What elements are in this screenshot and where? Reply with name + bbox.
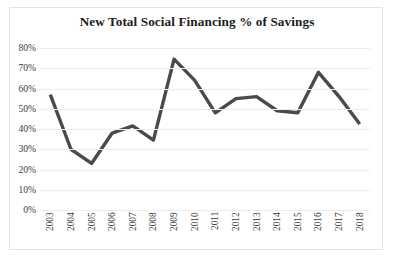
chart-title: New Total Social Financing % of Savings [0, 14, 394, 30]
x-axis-tick-label: 2007 [127, 212, 139, 250]
x-axis-tick-label: 2005 [86, 212, 98, 250]
y-axis-tick-label: 0% [4, 204, 36, 215]
y-axis-tick-label: 30% [4, 143, 36, 154]
gridline [40, 129, 370, 130]
x-axis-tick-label: 2012 [230, 212, 242, 250]
x-axis-tick-label: 2014 [271, 212, 283, 250]
x-axis-tick-label: 2015 [292, 212, 304, 250]
plot-area [40, 48, 370, 210]
gridline [40, 149, 370, 150]
x-axis-tick-label: 2009 [168, 212, 180, 250]
gridline [40, 210, 370, 211]
y-axis-tick-label: 40% [4, 123, 36, 134]
x-axis-tick-label: 2004 [65, 212, 77, 250]
y-axis-tick-label: 10% [4, 184, 36, 195]
x-axis-tick-label: 2016 [312, 212, 324, 250]
gridline [40, 68, 370, 69]
x-axis-tick-label: 2018 [354, 212, 366, 250]
series-polyline [50, 59, 359, 163]
x-axis-tick-label: 2011 [209, 212, 221, 250]
gridline [40, 89, 370, 90]
x-axis: 2003200420052006200720082009201020112012… [40, 212, 370, 252]
x-axis-tick-label: 2013 [251, 212, 263, 250]
x-axis-tick-label: 2008 [147, 212, 159, 250]
x-axis-tick-label: 2017 [333, 212, 345, 250]
x-axis-tick-label: 2010 [189, 212, 201, 250]
gridline [40, 190, 370, 191]
gridline [40, 109, 370, 110]
y-axis-tick-label: 50% [4, 103, 36, 114]
y-axis-tick-label: 70% [4, 62, 36, 73]
x-axis-tick-label: 2006 [106, 212, 118, 250]
y-axis-tick-label: 60% [4, 83, 36, 94]
y-axis-tick-label: 20% [4, 164, 36, 175]
gridline [40, 48, 370, 49]
chart-screenshot: New Total Social Financing % of Savings … [0, 0, 394, 260]
y-axis-tick-label: 80% [4, 42, 36, 53]
gridline [40, 170, 370, 171]
x-axis-tick-label: 2003 [44, 212, 56, 250]
